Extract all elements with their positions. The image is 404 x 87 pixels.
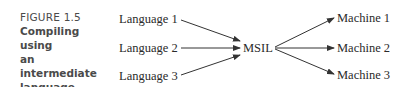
node-machine-1: Machine 1 [337,11,390,25]
arrow-language1-msil [181,20,240,41]
node-machine-3: Machine 3 [337,68,390,82]
arrow-language3-msil [181,55,240,75]
node-language-3: Language 3 [119,69,178,83]
figure: FIGURE 1.5 Compiling using an intermedia… [0,0,404,87]
node-language-2: Language 2 [119,41,178,55]
node-machine-2: Machine 2 [337,41,390,55]
node-msil: MSIL [243,41,273,55]
arrow-msil-machine3 [275,49,334,74]
node-language-1: Language 1 [119,12,178,26]
arrow-msil-machine1 [275,18,334,47]
